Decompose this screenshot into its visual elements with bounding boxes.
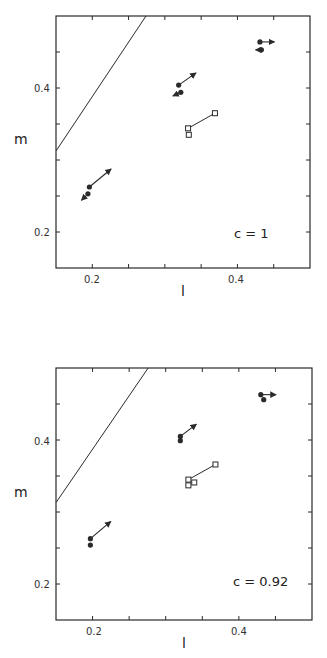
x-tick-label-0.4: 0.4 (228, 274, 244, 285)
x-tick-label-0.2: 0.2 (86, 626, 102, 637)
filled-circle-marker (257, 39, 262, 44)
y-tick-label-0.4: 0.4 (34, 436, 50, 447)
parameter-annotation: c = 0.92 (233, 574, 288, 589)
parameter-annotation: c = 1 (234, 226, 269, 241)
open-square-marker (186, 483, 191, 488)
x-tick-label-0.4: 0.4 (231, 626, 247, 637)
open-square-marker (213, 462, 218, 467)
x-tick-label-0.2: 0.2 (84, 274, 100, 285)
y-axis-label: m (14, 484, 28, 500)
open-square-marker (186, 132, 191, 137)
square-connector (188, 464, 215, 479)
open-square-marker (186, 477, 191, 482)
arrow-vector (180, 424, 196, 436)
filled-circle-marker (88, 536, 93, 541)
x-axis-label: l (182, 635, 186, 651)
arrow-vector (89, 169, 111, 187)
reference-line (56, 368, 148, 503)
plot-frame (56, 16, 310, 268)
arrow-vector (179, 73, 196, 85)
y-tick-label-0.2: 0.2 (34, 579, 50, 590)
open-square-marker (192, 480, 197, 485)
chart-panel-c1: m l 0.2 0.4 0.2 0.4 c = 1 (0, 0, 327, 330)
filled-circle-marker (87, 184, 92, 189)
y-tick-label-0.2: 0.2 (34, 227, 50, 238)
chart-panel-c092: m l 0.2 0.4 0.2 0.4 c = 0.92 (0, 330, 327, 658)
y-axis-label: m (14, 131, 28, 147)
plot-area (56, 16, 310, 268)
filled-circle-marker (176, 83, 181, 88)
arrow-vector (90, 521, 110, 538)
filled-circle-marker (178, 90, 183, 95)
y-tick-label-0.4: 0.4 (34, 83, 50, 94)
filled-circle-marker (178, 438, 183, 443)
scatter-plot-c1: m l 0.2 0.4 0.2 0.4 c = 1 (0, 0, 327, 330)
filled-circle-marker (261, 397, 266, 402)
square-connector (188, 113, 215, 128)
open-square-marker (212, 111, 217, 116)
x-axis-label: l (181, 283, 185, 299)
reference-line (56, 16, 146, 151)
open-square-marker (186, 126, 191, 131)
filled-circle-marker (85, 191, 90, 196)
filled-circle-marker (259, 47, 264, 52)
filled-circle-marker (88, 543, 93, 548)
scatter-plot-c092: m l 0.2 0.4 0.2 0.4 c = 0.92 (0, 330, 327, 658)
filled-circle-marker (258, 392, 263, 397)
